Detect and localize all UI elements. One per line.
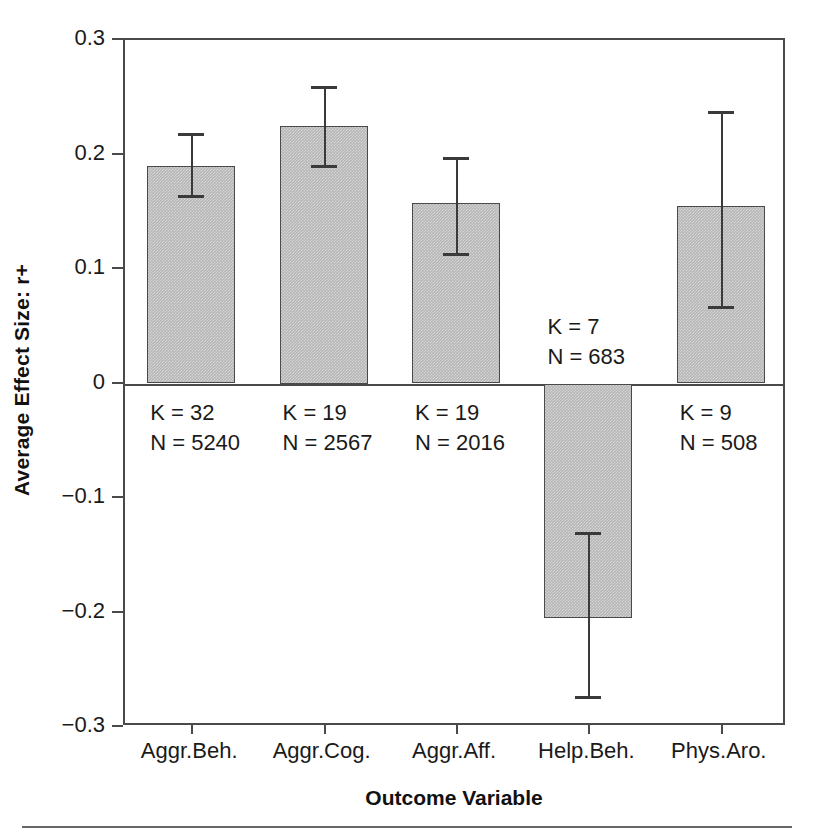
bar-annotation: K = 7N = 683 xyxy=(547,312,625,372)
y-tick-mark xyxy=(112,153,123,155)
x-tick-label: Help.Beh. xyxy=(538,738,635,764)
x-tick-mark xyxy=(588,723,590,734)
footer-rule xyxy=(22,826,792,828)
x-tick-mark xyxy=(456,723,458,734)
y-tick-mark xyxy=(112,38,123,40)
annotation-k: K = 7 xyxy=(547,312,625,342)
error-bar-cap-upper xyxy=(178,133,204,136)
y-axis: 0.30.20.10−0.1−0.2−0.3 xyxy=(0,38,123,725)
annotation-k: K = 32 xyxy=(150,398,240,428)
x-tick-label: Aggr.Beh. xyxy=(141,738,238,764)
y-tick-label: 0.3 xyxy=(74,25,105,51)
y-tick-label: 0 xyxy=(93,369,105,395)
error-bar-cap-upper xyxy=(311,86,337,89)
x-tick-mark xyxy=(721,723,723,734)
annotation-n: N = 2016 xyxy=(415,428,505,458)
y-tick-label: −0.3 xyxy=(62,712,105,738)
x-axis-title: Outcome Variable xyxy=(123,786,785,810)
plot-area: K = 32N = 5240K = 19N = 2567K = 19N = 20… xyxy=(123,38,785,725)
x-tick-label: Aggr.Cog. xyxy=(273,738,371,764)
error-bar-cap-lower xyxy=(311,165,337,168)
x-tick-mark xyxy=(191,723,193,734)
error-bar-line xyxy=(721,111,723,306)
error-bar-cap-lower xyxy=(708,306,734,309)
annotation-k: K = 19 xyxy=(283,398,373,428)
error-bar-cap-lower xyxy=(178,195,204,198)
y-tick-label: −0.2 xyxy=(62,598,105,624)
y-tick-mark xyxy=(112,725,123,727)
bar xyxy=(147,166,235,384)
bar-annotation: K = 19N = 2567 xyxy=(283,398,373,458)
y-tick-mark xyxy=(112,382,123,384)
annotation-n: N = 2567 xyxy=(283,428,373,458)
annotation-n: N = 508 xyxy=(680,428,758,458)
y-tick-mark xyxy=(112,611,123,613)
x-tick-mark xyxy=(324,723,326,734)
y-tick-label: 0.2 xyxy=(74,140,105,166)
x-tick-label: Aggr.Aff. xyxy=(412,738,496,764)
y-tick-label: 0.1 xyxy=(74,254,105,280)
error-bar-cap-upper xyxy=(575,532,601,535)
annotation-k: K = 9 xyxy=(680,398,758,428)
y-tick-mark xyxy=(112,267,123,269)
annotation-k: K = 19 xyxy=(415,398,505,428)
y-tick-mark xyxy=(112,496,123,498)
error-bar-cap-upper xyxy=(443,157,469,160)
error-bar-cap-lower xyxy=(443,253,469,256)
chart-figure: Average Effect Size: r+ 0.30.20.10−0.1−0… xyxy=(0,0,814,838)
error-bar-line xyxy=(191,133,193,195)
x-tick-label: Phys.Aro. xyxy=(671,738,766,764)
bar-annotation: K = 19N = 2016 xyxy=(415,398,505,458)
bar-annotation: K = 9N = 508 xyxy=(680,398,758,458)
zero-baseline xyxy=(125,384,783,386)
y-tick-label: −0.1 xyxy=(62,483,105,509)
bar-annotation: K = 32N = 5240 xyxy=(150,398,240,458)
error-bar-line xyxy=(456,157,458,253)
error-bar-cap-lower xyxy=(575,696,601,699)
annotation-n: N = 683 xyxy=(547,342,625,372)
error-bar-line xyxy=(324,86,326,165)
annotation-n: N = 5240 xyxy=(150,428,240,458)
error-bar-cap-upper xyxy=(708,111,734,114)
error-bar-line xyxy=(588,532,590,696)
